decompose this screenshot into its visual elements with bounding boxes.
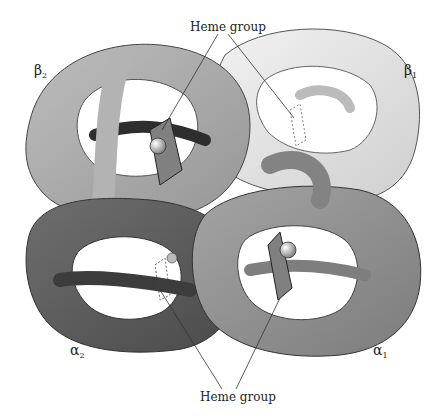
beta2-label: β2 xyxy=(34,62,47,80)
hemoglobin-diagram: Heme group Heme group β2 β1 α2 α1 xyxy=(0,0,448,418)
alpha2-label: α2 xyxy=(70,342,85,360)
heme-group-label-top: Heme group xyxy=(190,20,266,34)
alpha1-label: α1 xyxy=(373,342,388,360)
beta1-label: β1 xyxy=(404,62,417,80)
heme-group-label-bottom: Heme group xyxy=(200,390,276,404)
